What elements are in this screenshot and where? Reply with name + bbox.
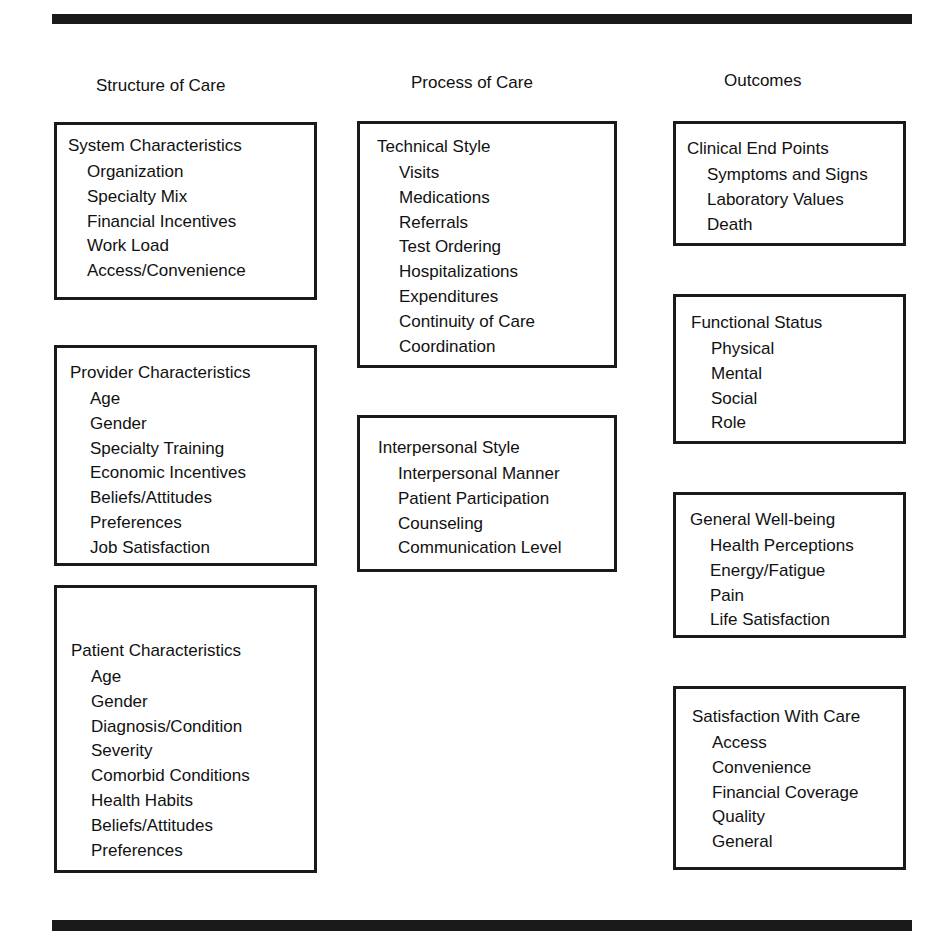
list-item: Preferences [91, 839, 250, 864]
list-item: Age [90, 387, 246, 412]
list-item: Financial Coverage [712, 781, 858, 806]
list-item: Coordination [399, 335, 535, 360]
box-interpersonal-style: Interpersonal Style Interpersonal Manner… [357, 415, 617, 572]
list-item: Organization [87, 160, 246, 185]
box-title: Interpersonal Style [378, 438, 520, 458]
list-item: Expenditures [399, 285, 535, 310]
box-title: Provider Characteristics [70, 363, 250, 383]
list-item: Gender [91, 690, 250, 715]
list-item: Visits [399, 161, 535, 186]
list-item: Work Load [87, 234, 246, 259]
list-item: Life Satisfaction [710, 608, 854, 633]
box-title: General Well-being [690, 510, 835, 530]
bottom-rule [52, 920, 912, 931]
list-item: Communication Level [398, 536, 561, 561]
box-title: Technical Style [377, 137, 490, 157]
list-item: Financial Incentives [87, 210, 246, 235]
list-item: Economic Incentives [90, 461, 246, 486]
list-item: Mental [711, 362, 774, 387]
list-item: Health Habits [91, 789, 250, 814]
list-item: Diagnosis/Condition [91, 715, 250, 740]
box-title: Satisfaction With Care [692, 707, 860, 727]
list-item: Pain [710, 584, 854, 609]
list-item: Hospitalizations [399, 260, 535, 285]
box-title: Functional Status [691, 313, 822, 333]
box-technical-style: Technical Style Visits Medications Refer… [357, 121, 617, 368]
box-title: Patient Characteristics [71, 641, 241, 661]
list-item: Test Ordering [399, 235, 535, 260]
box-patient-characteristics: Patient Characteristics Age Gender Diagn… [54, 585, 317, 873]
list-item: Health Perceptions [710, 534, 854, 559]
list-item: Beliefs/Attitudes [91, 814, 250, 839]
list-item: Energy/Fatigue [710, 559, 854, 584]
list-item: Physical [711, 337, 774, 362]
box-title: Clinical End Points [687, 139, 829, 159]
list-item: Specialty Mix [87, 185, 246, 210]
box-system-characteristics: System Characteristics Organization Spec… [54, 122, 317, 300]
list-item: Severity [91, 739, 250, 764]
list-item: Patient Participation [398, 487, 561, 512]
list-item: Quality [712, 805, 858, 830]
list-item: Access/Convenience [87, 259, 246, 284]
list-item: Interpersonal Manner [398, 462, 561, 487]
list-item: Death [707, 213, 868, 238]
list-item: Counseling [398, 512, 561, 537]
list-item: Specialty Training [90, 437, 246, 462]
box-functional-status: Functional Status Physical Mental Social… [673, 294, 906, 444]
heading-process-of-care: Process of Care [411, 73, 533, 93]
heading-outcomes: Outcomes [724, 71, 801, 91]
list-item: Job Satisfaction [90, 536, 246, 561]
list-item: Access [712, 731, 858, 756]
list-item: Age [91, 665, 250, 690]
heading-structure-of-care: Structure of Care [96, 76, 225, 96]
list-item: Convenience [712, 756, 858, 781]
list-item: Continuity of Care [399, 310, 535, 335]
box-general-well-being: General Well-being Health Perceptions En… [673, 492, 906, 638]
box-provider-characteristics: Provider Characteristics Age Gender Spec… [54, 345, 317, 566]
box-clinical-end-points: Clinical End Points Symptoms and Signs L… [673, 121, 906, 246]
list-item: Beliefs/Attitudes [90, 486, 246, 511]
list-item: Laboratory Values [707, 188, 868, 213]
box-title: System Characteristics [68, 136, 242, 156]
list-item: Social [711, 387, 774, 412]
list-item: Comorbid Conditions [91, 764, 250, 789]
list-item: Referrals [399, 211, 535, 236]
list-item: Symptoms and Signs [707, 163, 868, 188]
list-item: Gender [90, 412, 246, 437]
box-satisfaction-with-care: Satisfaction With Care Access Convenienc… [673, 686, 906, 870]
list-item: General [712, 830, 858, 855]
top-rule [52, 14, 912, 24]
list-item: Role [711, 411, 774, 436]
list-item: Medications [399, 186, 535, 211]
list-item: Preferences [90, 511, 246, 536]
